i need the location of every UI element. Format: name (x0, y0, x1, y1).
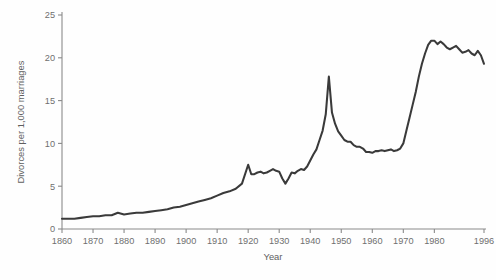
line-chart: 0510152025186018701880189019001910192019… (0, 0, 496, 280)
chart-container: 0510152025186018701880189019001910192019… (0, 0, 496, 280)
x-tick-label: 1940 (300, 236, 320, 246)
x-tick-label: 1860 (52, 236, 72, 246)
y-tick-label: 25 (45, 10, 55, 20)
y-tick-label: 0 (50, 224, 55, 234)
x-axis-title: Year (264, 251, 283, 262)
data-series-line (62, 41, 484, 219)
plot-area: 0510152025186018701880189019001910192019… (15, 10, 494, 262)
x-tick-label: 1910 (207, 236, 227, 246)
x-tick-label: 1970 (393, 236, 413, 246)
x-tick-label: 1920 (238, 236, 258, 246)
y-tick-label: 15 (45, 96, 55, 106)
y-axis-title: Divorces per 1,000 marriages (15, 60, 26, 183)
x-tick-label: 1880 (114, 236, 134, 246)
y-tick-label: 20 (45, 53, 55, 63)
y-tick-label: 5 (50, 182, 55, 192)
x-tick-label: 1980 (424, 236, 444, 246)
x-tick-label: 1960 (362, 236, 382, 246)
x-tick-label: 1930 (269, 236, 289, 246)
x-tick-label: 1870 (83, 236, 103, 246)
x-tick-label: 1890 (145, 236, 165, 246)
x-tick-label: 1900 (176, 236, 196, 246)
x-tick-label: 1996 (474, 236, 494, 246)
y-tick-label: 10 (45, 139, 55, 149)
x-tick-label: 1950 (331, 236, 351, 246)
